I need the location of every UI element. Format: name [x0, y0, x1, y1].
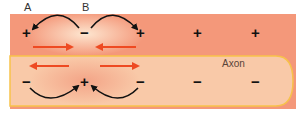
minus-charge-inside-4: −: [251, 74, 260, 89]
minus-charge-inside-3: −: [193, 74, 202, 89]
minus-charge-outside-1: −: [80, 25, 89, 40]
plus-charge-outside-3: +: [193, 25, 202, 40]
point-a-label: A: [24, 1, 31, 13]
minus-charge-inside-2: −: [136, 74, 145, 89]
minus-charge-inside-0: −: [22, 74, 31, 89]
plus-charge-outside-2: +: [136, 25, 145, 40]
axon-figure: [0, 0, 305, 113]
axon-diagram: A B Axon +−+++ −+−−−: [0, 0, 305, 113]
plus-charge-inside-1: +: [80, 74, 89, 89]
point-b-label: B: [82, 1, 89, 13]
axon-label: Axon: [222, 58, 245, 69]
plus-charge-outside-4: +: [251, 25, 260, 40]
plus-charge-outside-0: +: [22, 25, 31, 40]
